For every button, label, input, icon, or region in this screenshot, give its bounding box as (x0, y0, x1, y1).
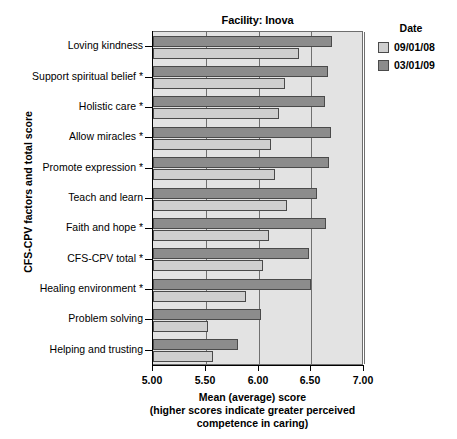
x-axis-tick-label: 5.50 (183, 374, 227, 386)
legend-title: Date (378, 22, 444, 34)
legend-swatch-icon (378, 42, 389, 53)
bar-03/01/09 (153, 339, 238, 350)
x-axis-title: Mean (average) score(higher scores indic… (110, 391, 395, 430)
bar-09/01/08 (153, 351, 213, 362)
bar-03/01/09 (153, 66, 328, 77)
x-axis-tick (310, 365, 311, 371)
x-axis-tick (258, 365, 259, 371)
y-axis-title: CFS-CPV factors and total score (22, 92, 34, 292)
legend: Date 09/01/0803/01/09 (378, 22, 457, 77)
bar-09/01/08 (153, 291, 246, 302)
x-axis-tick (363, 365, 364, 371)
bar-09/01/08 (153, 48, 299, 59)
y-axis-tick (145, 350, 153, 351)
x-axis-tick-label: 6.50 (288, 374, 332, 386)
y-axis-tick (145, 319, 153, 320)
legend-entry: 09/01/08 (378, 41, 457, 53)
x-axis-tick-label: 7.00 (341, 374, 385, 386)
x-axis-tick-label: 5.00 (130, 374, 174, 386)
x-axis-title-line: (higher scores indicate greater perceive… (110, 404, 395, 417)
bar-03/01/09 (153, 188, 317, 199)
y-axis-label: Loving kindness (0, 40, 143, 51)
bar-09/01/08 (153, 200, 287, 211)
bar-09/01/08 (153, 230, 269, 241)
x-axis-tick-label: 6.00 (236, 374, 280, 386)
bar-09/01/08 (153, 321, 208, 332)
plot-area (152, 31, 363, 365)
bar-03/01/09 (153, 248, 309, 259)
legend-entry-label: 09/01/08 (394, 41, 435, 53)
y-axis-tick (145, 168, 153, 169)
bar-03/01/09 (153, 218, 326, 229)
y-axis-tick (145, 228, 153, 229)
y-axis-tick (145, 107, 153, 108)
legend-entries: 09/01/0803/01/09 (378, 41, 457, 71)
chart-title: Facility: Inova (152, 14, 363, 26)
bar-03/01/09 (153, 279, 311, 290)
x-axis-tick (205, 365, 206, 371)
y-axis-label: Support spiritual belief * (0, 71, 143, 82)
y-axis-label: Helping and trusting (0, 344, 143, 355)
bar-chart-figure: Facility: Inova Loving kindnessSupport s… (0, 0, 457, 439)
y-axis-tick (145, 198, 153, 199)
legend-swatch-icon (378, 60, 389, 71)
y-axis-tick (145, 137, 153, 138)
bar-09/01/08 (153, 169, 275, 180)
bar-09/01/08 (153, 260, 263, 271)
bar-03/01/09 (153, 127, 331, 138)
bar-03/01/09 (153, 96, 325, 107)
x-axis-title-line: competence in caring) (110, 417, 395, 430)
y-axis-label: Problem solving (0, 313, 143, 324)
bar-09/01/08 (153, 108, 279, 119)
legend-entry-label: 03/01/09 (394, 59, 435, 71)
bar-03/01/09 (153, 157, 329, 168)
y-axis-tick (145, 77, 153, 78)
y-axis-tick (145, 46, 153, 47)
y-axis-tick (145, 289, 153, 290)
bar-03/01/09 (153, 36, 332, 47)
bar-03/01/09 (153, 309, 261, 320)
bar-09/01/08 (153, 78, 285, 89)
legend-entry: 03/01/09 (378, 59, 457, 71)
x-axis-title-line: Mean (average) score (110, 391, 395, 404)
gridline (364, 32, 365, 364)
x-axis-tick (152, 365, 153, 371)
bar-09/01/08 (153, 139, 271, 150)
y-axis-tick (145, 259, 153, 260)
